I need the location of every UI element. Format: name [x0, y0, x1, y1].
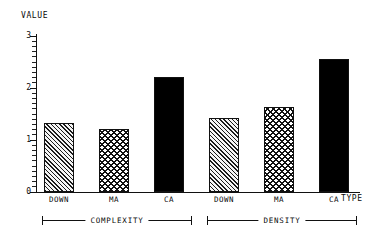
bar: [319, 59, 349, 192]
x-axis-line: [30, 192, 360, 193]
bar: [209, 118, 239, 192]
bracket-cap-left: [42, 216, 43, 225]
category-label: CA: [307, 195, 361, 204]
group-label: DENSITY: [258, 215, 305, 226]
bar: [264, 107, 294, 192]
category-label: DOWN: [32, 195, 86, 204]
bar: [154, 77, 184, 192]
bracket-cap-left: [207, 216, 208, 225]
group-bracket: COMPLEXITY: [42, 215, 192, 227]
category-label: DOWN: [197, 195, 251, 204]
category-label: CA: [142, 195, 196, 204]
category-label: MA: [252, 195, 306, 204]
category-label: MA: [87, 195, 141, 204]
bar: [44, 123, 74, 192]
bar: [99, 129, 129, 192]
bracket-cap-right: [191, 216, 192, 225]
bars-layer: [0, 36, 378, 192]
y-axis-title: VALUE: [21, 11, 48, 21]
group-label: COMPLEXITY: [85, 215, 148, 226]
bar-chart: VALUE TYPE 3210 DOWNMACADOWNMACA COMPLEX…: [0, 0, 378, 235]
group-bracket: DENSITY: [207, 215, 357, 227]
bracket-cap-right: [356, 216, 357, 225]
